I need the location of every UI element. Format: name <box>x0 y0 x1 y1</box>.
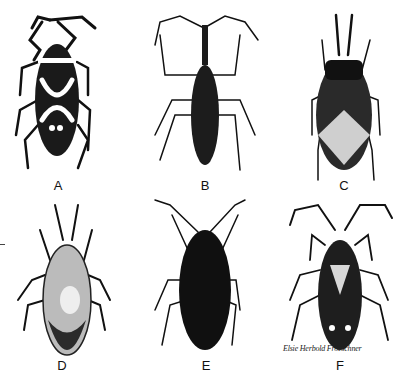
panel-label-d: D <box>52 358 72 373</box>
insect-e-drawing <box>155 200 245 350</box>
insect-d-drawing <box>18 205 110 355</box>
panel-label-a: A <box>48 178 68 193</box>
insect-c-drawing <box>312 15 380 180</box>
panel-label-b: B <box>195 178 215 193</box>
illustration-plate: A B C D E F Elsie Herbold Froeschner <box>0 0 404 379</box>
insect-a-drawing <box>16 17 95 168</box>
insect-f-drawing <box>290 205 392 350</box>
panel-label-e: E <box>196 358 216 373</box>
panel-label-c: C <box>334 178 354 193</box>
insect-b-drawing <box>155 16 258 170</box>
panel-label-f: F <box>330 358 350 373</box>
artist-signature: Elsie Herbold Froeschner <box>283 344 361 353</box>
margin-mark <box>0 244 5 245</box>
